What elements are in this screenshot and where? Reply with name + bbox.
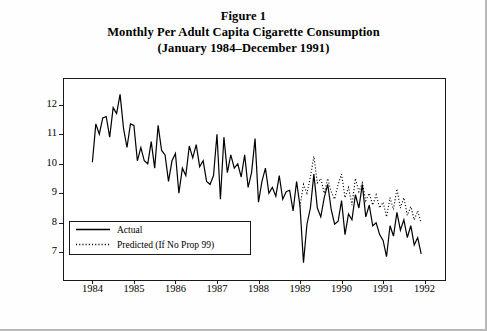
y-tick-10: 10 <box>37 157 57 168</box>
x-tick-1984: 1984 <box>72 283 112 294</box>
x-tick-mark-1991 <box>383 280 384 284</box>
figure-title-line-2: Monthly Per Adult Capita Cigarette Consu… <box>0 24 487 40</box>
y-tick-mark-8 <box>59 223 63 224</box>
x-tick-mark-1989 <box>300 280 301 284</box>
x-tick-mark-1992 <box>425 280 426 284</box>
y-tick-mark-12 <box>59 105 63 106</box>
y-tick-7: 7 <box>37 245 57 256</box>
y-tick-mark-7 <box>59 252 63 253</box>
y-tick-mark-9 <box>59 193 63 194</box>
x-tick-1990: 1990 <box>322 283 362 294</box>
x-tick-mark-1988 <box>259 280 260 284</box>
legend-sample-solid <box>76 225 110 234</box>
x-tick-1987: 1987 <box>197 283 237 294</box>
x-tick-1991: 1991 <box>363 283 403 294</box>
figure-title-line-1: Figure 1 <box>0 8 487 24</box>
x-tick-mark-1984 <box>92 280 93 284</box>
figure-title-line-3: (January 1984–December 1991) <box>0 40 487 56</box>
x-tick-1988: 1988 <box>239 283 279 294</box>
x-tick-1986: 1986 <box>155 283 195 294</box>
legend-item-predicted: Predicted (If No Prop 99) <box>70 237 250 252</box>
x-tick-1985: 1985 <box>114 283 154 294</box>
y-tick-12: 12 <box>37 98 57 109</box>
figure-page: Figure 1 Monthly Per Adult Capita Cigare… <box>0 0 487 331</box>
legend-label-predicted: Predicted (If No Prop 99) <box>117 240 214 250</box>
legend-label-actual: Actual <box>117 225 142 235</box>
x-tick-1992: 1992 <box>405 283 445 294</box>
y-tick-mark-10 <box>59 164 63 165</box>
x-tick-mark-1990 <box>342 280 343 284</box>
chart-legend: Actual Predicted (If No Prop 99) <box>69 221 251 255</box>
legend-sample-dotted <box>76 240 110 249</box>
x-tick-mark-1987 <box>217 280 218 284</box>
series-predicted-if-no-prop-99 <box>300 156 421 222</box>
y-tick-8: 8 <box>37 216 57 227</box>
x-tick-mark-1985 <box>134 280 135 284</box>
figure-title: Figure 1 Monthly Per Adult Capita Cigare… <box>0 8 487 56</box>
y-tick-9: 9 <box>37 186 57 197</box>
y-axis-label: Number of Packs <box>0 0 1 55</box>
x-tick-1989: 1989 <box>280 283 320 294</box>
y-tick-mark-11 <box>59 134 63 135</box>
y-tick-11: 11 <box>37 127 57 138</box>
x-tick-mark-1986 <box>175 280 176 284</box>
legend-item-actual: Actual <box>70 222 250 237</box>
